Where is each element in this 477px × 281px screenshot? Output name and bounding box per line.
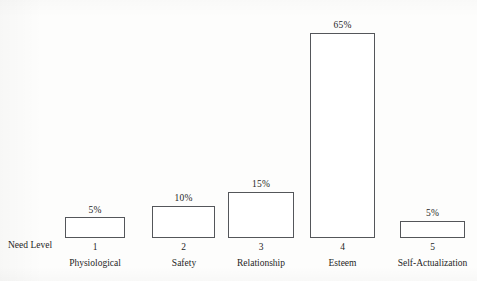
tick-number-4: 4 <box>310 242 375 252</box>
bar-chart-plot-area: 5% 1 Physiological 10% 2 Safety 15% 3 Re… <box>0 0 477 281</box>
tick-number-5: 5 <box>400 242 465 252</box>
bar-value-label-5: 5% <box>400 208 465 218</box>
bar-value-label-4: 65% <box>310 20 375 30</box>
tick-label-relationship: Relationship <box>222 258 300 268</box>
tick-number-3: 3 <box>228 242 294 252</box>
tick-label-safety: Safety <box>148 258 220 268</box>
bar-value-label-1: 5% <box>65 205 125 215</box>
chart-page: 5% 1 Physiological 10% 2 Safety 15% 3 Re… <box>0 0 477 281</box>
bar-relationship[interactable] <box>228 192 294 238</box>
bar-physiological[interactable] <box>65 217 125 238</box>
bar-value-label-3: 15% <box>228 179 294 189</box>
tick-number-1: 1 <box>65 242 125 252</box>
bar-esteem[interactable] <box>310 33 375 238</box>
bar-self-actualization[interactable] <box>400 221 465 238</box>
tick-label-esteem: Esteem <box>306 258 379 268</box>
bar-safety[interactable] <box>152 206 215 238</box>
bar-value-label-2: 10% <box>152 193 215 203</box>
tick-label-self-actualization: Self-Actualization <box>388 258 477 268</box>
tick-number-2: 2 <box>152 242 215 252</box>
axis-caption-need-level: Need Level <box>8 240 52 250</box>
tick-label-physiological: Physiological <box>55 258 135 268</box>
